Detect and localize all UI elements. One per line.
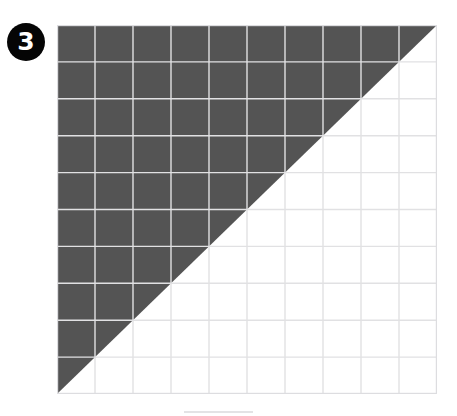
grid-svg xyxy=(57,25,437,394)
question-number-label: 3 xyxy=(17,29,34,54)
figure-root: 3 xyxy=(0,0,457,416)
question-number-badge: 3 xyxy=(7,23,45,61)
bottom-rule xyxy=(184,411,253,413)
shaded-grid-figure xyxy=(57,25,437,394)
